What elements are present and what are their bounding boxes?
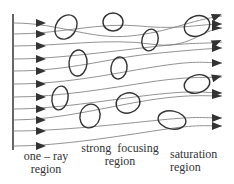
label-line: region xyxy=(80,155,160,168)
label-saturation-region: saturation region xyxy=(170,148,226,174)
lens-blob xyxy=(50,85,70,111)
lens-blob xyxy=(103,13,123,31)
lens-blob xyxy=(68,49,88,76)
lens-blob xyxy=(50,11,81,44)
label-line: region xyxy=(18,163,74,176)
label-line: region xyxy=(170,161,226,174)
lens-blob xyxy=(114,90,142,116)
label-one-ray-region: one – ray region xyxy=(18,150,74,176)
label-strong-focusing-region: strong focusing region xyxy=(80,142,160,168)
